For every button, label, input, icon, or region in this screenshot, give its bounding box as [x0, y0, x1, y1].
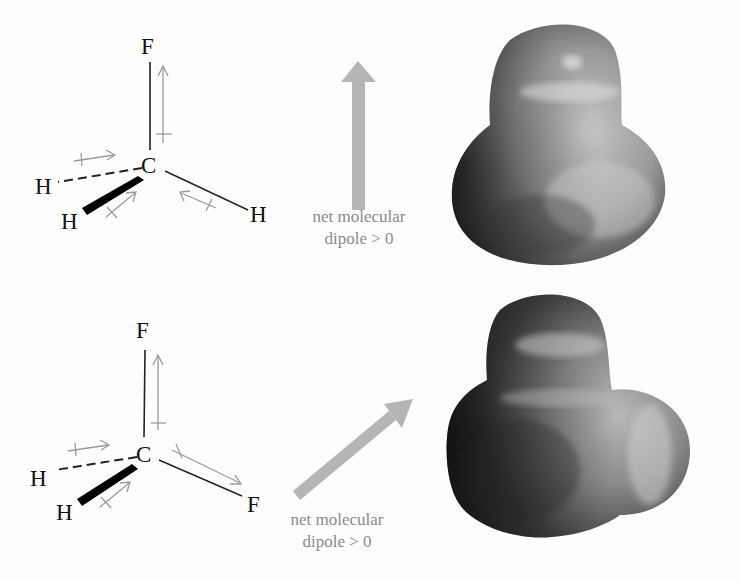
atom-h-wedge: H	[61, 209, 78, 234]
dipole-figure: F C H H H net molecular dipole > 0	[0, 0, 740, 582]
atom-h-wedge: H	[56, 500, 73, 525]
caption-2-line2: dipole > 0	[302, 532, 371, 551]
molecule-ch3f: F C H H H	[35, 34, 267, 234]
atom-f-right: F	[247, 492, 260, 517]
bond-dipole-arrows	[74, 66, 216, 218]
dashed-bond-c-h	[55, 457, 137, 470]
caption-2-line1: net molecular	[291, 510, 384, 529]
atom-h-right: H	[250, 202, 267, 227]
atom-c: C	[136, 442, 151, 467]
atom-c: C	[141, 153, 156, 178]
molecule-ch2f2: F C H H F	[30, 318, 260, 525]
net-dipole-arrow-1	[341, 61, 376, 210]
figure-canvas: F C H H H net molecular dipole > 0	[0, 0, 740, 582]
atom-f-top: F	[141, 34, 154, 59]
caption-1-line2: dipole > 0	[324, 229, 393, 248]
caption-1-line1: net molecular	[313, 207, 406, 226]
dashed-bond-c-h	[58, 168, 142, 182]
atom-h-dashed: H	[30, 466, 47, 491]
atom-f-top: F	[136, 318, 149, 343]
net-dipole-arrow-2	[293, 399, 413, 500]
atom-h-dashed: H	[35, 174, 52, 199]
electrostatic-potential-surface-ch2f2	[447, 294, 690, 537]
bond-c-f	[144, 350, 145, 437]
electrostatic-potential-surface-ch3f	[452, 25, 665, 266]
